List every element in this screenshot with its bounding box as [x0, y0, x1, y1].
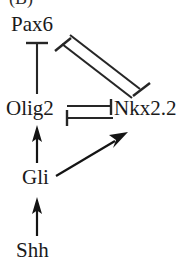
edge-nkx22-inhibits-olig2	[67, 110, 113, 126]
node-label-gli: Gli	[22, 167, 49, 188]
network-diagram-figure: (B)	[0, 0, 191, 270]
edge-shh-activates-gli	[32, 197, 42, 236]
edge-olig2-inhibits-pax6	[26, 43, 48, 94]
arrowhead-icon	[109, 132, 128, 148]
edge-olig2-inhibits-nkx22	[67, 99, 111, 115]
edge-shaft	[70, 35, 140, 89]
network-edges-layer	[0, 0, 191, 270]
edge-shaft	[56, 141, 115, 176]
edge-pax6-inhibits-nkx22	[70, 35, 150, 96]
node-label-olig2: Olig2	[6, 98, 54, 119]
node-label-nkx2-2: Nkx2.2	[114, 98, 176, 119]
node-label-shh: Shh	[16, 240, 49, 261]
edge-gli-activates-olig2	[32, 125, 42, 163]
edge-shaft	[62, 44, 132, 98]
edge-nkx22-inhibits-pax6	[55, 38, 132, 98]
node-label-pax6: Pax6	[11, 14, 53, 35]
edge-gli-activates-nkx22	[56, 132, 128, 176]
